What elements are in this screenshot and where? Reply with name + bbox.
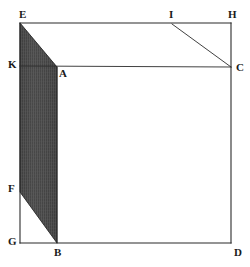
figure-canvas	[0, 0, 250, 267]
vertex-label-K: K	[8, 59, 17, 70]
vertex-label-A: A	[59, 68, 67, 79]
vertex-label-G: G	[8, 236, 17, 247]
segment-IC	[172, 24, 231, 67]
shaded-parallelogram-EABF	[20, 23, 57, 243]
vertex-label-I: I	[169, 9, 173, 20]
vertex-label-H: H	[228, 9, 237, 20]
vertex-label-D: D	[234, 247, 242, 258]
vertex-label-E: E	[19, 9, 26, 20]
vertex-label-C: C	[236, 62, 244, 73]
vertex-label-F: F	[8, 183, 15, 194]
geometry-figure: E I H K A C F G B D	[0, 0, 250, 267]
vertex-label-B: B	[54, 247, 61, 258]
